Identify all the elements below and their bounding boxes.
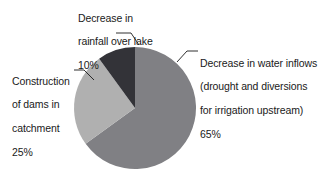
pie-label-inflows-line-1: Decrease in water inflows: [200, 58, 317, 70]
pie-label-dams-value: 25%: [12, 147, 70, 159]
pie-label-dams-line-2: of dams in: [12, 99, 70, 111]
pie-label-dams-line-3: catchment: [12, 123, 70, 135]
pie-label-decrease-in-rainfall-over-lake: Decrease in rainfall over lake 10%: [78, 1, 153, 84]
pie-label-inflows-value: 65%: [200, 129, 317, 141]
pie-label-rainfall-line-1: Decrease in: [78, 13, 153, 25]
pie-chart-figure: Decrease in rainfall over lake 10% Decre…: [0, 0, 329, 176]
pie-label-inflows-line-3: for irrigation upstream): [200, 105, 317, 117]
pie-label-inflows-line-2: (drought and diversions: [200, 81, 317, 93]
pie-label-rainfall-line-2: rainfall over lake: [78, 36, 153, 48]
pie-label-decrease-in-water-inflows: Decrease in water inflows (drought and d…: [200, 46, 317, 152]
pie-label-dams-line-1: Construction: [12, 76, 70, 88]
leader-line-inflows: [177, 51, 198, 62]
pie-label-rainfall-value: 10%: [78, 60, 153, 72]
pie-label-construction-of-dams-in-catchment: Construction of dams in catchment 25%: [12, 64, 70, 170]
